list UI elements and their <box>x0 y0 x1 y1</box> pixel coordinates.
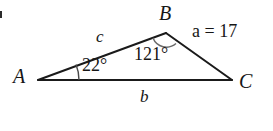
side-label-a: a = 17 <box>192 22 237 40</box>
vertex-label-b: B <box>159 3 171 23</box>
angle-arc-a <box>76 65 79 81</box>
vertex-label-c: C <box>239 71 252 91</box>
angle-label-a: 22° <box>82 56 107 74</box>
triangle-diagram: A B C c b a = 17 22° 121° <box>0 0 273 131</box>
triangle-drawing <box>0 0 273 131</box>
angle-label-b: 121° <box>134 45 168 63</box>
side-label-b: b <box>140 88 149 105</box>
vertex-label-a: A <box>13 66 25 86</box>
side-label-c: c <box>96 28 104 45</box>
